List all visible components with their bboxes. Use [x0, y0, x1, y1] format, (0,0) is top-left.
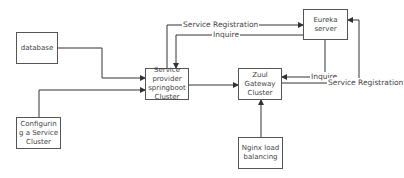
eureka-server-label: Eureka server	[305, 16, 346, 34]
database-node: database	[16, 32, 58, 64]
config-label: Configurin g a Service Cluster	[18, 120, 59, 147]
service-registration-zuul-label: Service Registration	[327, 78, 404, 87]
service-provider-label: Service provider springboot Cluster	[147, 66, 187, 102]
nginx-node: Nginx load balancing	[238, 137, 283, 169]
database-label: database	[21, 44, 53, 53]
edge-inquire-top	[176, 35, 303, 68]
eureka-server-node: Eureka server	[303, 9, 348, 40]
edge-database-to-service	[58, 48, 145, 78]
nginx-label: Nginx load balancing	[240, 144, 281, 162]
edge-config-to-service	[39, 90, 145, 117]
service-provider-node: Service provider springboot Cluster	[145, 68, 189, 100]
service-registration-top-label: Service Registration	[182, 20, 259, 29]
zuul-gateway-node: Zuul Gateway Cluster	[238, 68, 282, 100]
inquire-top-label: Inquire	[212, 30, 240, 39]
zuul-gateway-label: Zuul Gateway Cluster	[240, 71, 280, 98]
config-node: Configurin g a Service Cluster	[16, 117, 61, 149]
